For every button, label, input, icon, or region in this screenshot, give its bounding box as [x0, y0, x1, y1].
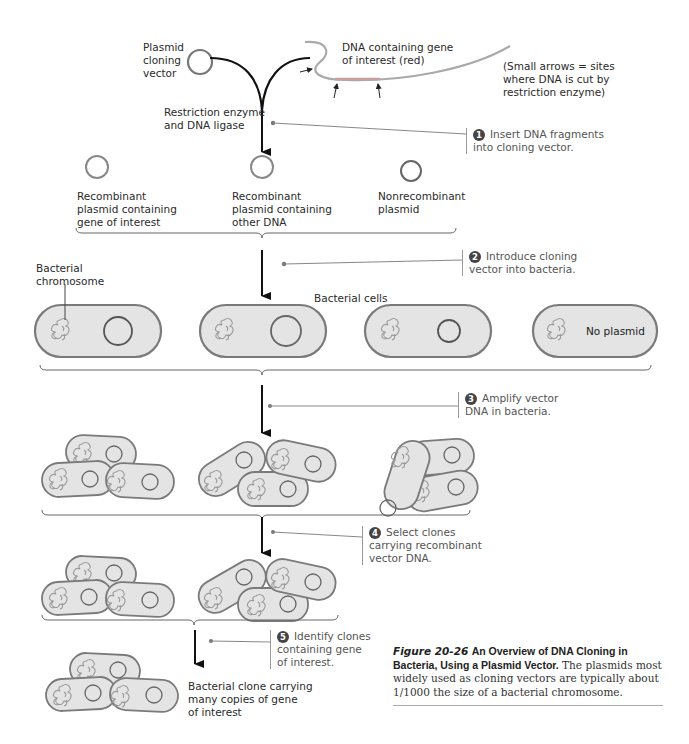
- no-plasmid-label: No plasmid: [586, 325, 645, 338]
- step-5-badge: 5: [277, 631, 289, 643]
- bacterial-cells-label: Bacterial cells: [314, 292, 387, 305]
- cut-site-arrow: [378, 84, 380, 98]
- step1-leader: [273, 123, 466, 134]
- step-4: 4Select clones carrying recombinant vect…: [362, 526, 482, 565]
- step4-leader: [273, 532, 362, 537]
- step-1: 1Insert DNA fragments into cloning vecto…: [466, 128, 604, 154]
- figure-number: Figure 20-26: [393, 645, 468, 657]
- step-2-badge: 2: [469, 251, 481, 263]
- colony-cluster-1: [41, 434, 175, 500]
- selected-cluster-1: [41, 555, 175, 618]
- brace-3: [42, 510, 470, 520]
- colony-cluster-3: [380, 436, 480, 516]
- step-3-badge: 3: [465, 393, 477, 405]
- dna-label: DNA containing gene of interest (red): [342, 41, 453, 67]
- step2-leader: [284, 260, 462, 264]
- step-2-text: Introduce cloning vector into bacteria.: [469, 250, 577, 275]
- step-4-badge: 4: [369, 527, 381, 539]
- step5-leader: [211, 641, 270, 642]
- bacterial-cell-2: [200, 305, 326, 357]
- selected-cluster-2: [193, 554, 339, 621]
- plasmid-label-2: Recombinant plasmid containing other DNA: [232, 190, 332, 229]
- cut-site-arrow: [300, 69, 312, 72]
- step-2: 2Introduce cloning vector into bacteria.: [462, 250, 577, 276]
- colony-cluster-2: [192, 436, 338, 506]
- bacterial-cell-3: [365, 305, 491, 357]
- chromosome-label: Bacterial chromosome: [36, 262, 104, 288]
- plasmid-vector-label: Plasmid cloning vector: [143, 41, 184, 80]
- figure-caption: Figure 20-26 An Overview of DNA Cloning …: [393, 645, 663, 706]
- step-1-text: Insert DNA fragments into cloning vector…: [473, 128, 604, 153]
- step-3-text: Amplify vector DNA in bacteria.: [465, 392, 558, 417]
- step-5-text: Identify clones containing gene of inter…: [277, 630, 371, 668]
- brace-1: [76, 228, 456, 238]
- recombinant-plasmid-other-icon: [251, 156, 273, 178]
- final-clone-cluster: [45, 652, 179, 713]
- recombinant-plasmid-gene-icon: [86, 156, 108, 178]
- join-curve-right: [262, 58, 310, 110]
- nonrecombinant-plasmid-icon: [401, 161, 421, 181]
- plasmid-label-3: Nonrecombinant plasmid: [378, 190, 465, 216]
- step-3: 3Amplify vector DNA in bacteria.: [458, 392, 558, 418]
- brace-2: [40, 365, 651, 375]
- bacterial-cell-1: [35, 305, 161, 357]
- final-clone-label: Bacterial clone carrying many copies of …: [188, 680, 313, 719]
- cut-sites-note: (Small arrows = sites where DNA is cut b…: [503, 60, 615, 99]
- step-1-badge: 1: [473, 129, 485, 141]
- enzyme-label: Restriction enzyme and DNA ligase: [164, 106, 265, 132]
- join-curve-left: [210, 58, 262, 110]
- cut-site-arrow: [334, 84, 337, 98]
- plasmid-label-1: Recombinant plasmid containing gene of i…: [77, 190, 177, 229]
- step-5: 5Identify clones containing gene of inte…: [270, 630, 371, 669]
- plasmid-vector-icon: [188, 50, 212, 74]
- step-4-text: Select clones carrying recombinant vecto…: [369, 526, 482, 564]
